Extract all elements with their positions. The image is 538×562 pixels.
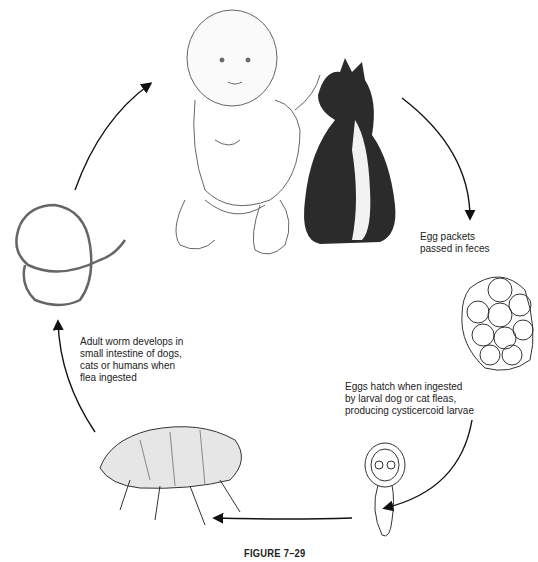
label-line: passed in feces [420,243,490,255]
cat-icon [304,58,395,244]
label-adult-worm: Adult worm develops in small intestine o… [80,336,183,384]
label-egg-packets: Egg packets passed in feces [420,231,490,255]
life-cycle-diagram [0,0,538,562]
figure-caption: FIGURE 7–29 [244,547,306,559]
arrow-worm-to-host [75,84,150,190]
label-line: Adult worm develops in [80,336,183,348]
label-line: by larval dog or cat fleas, [345,393,474,405]
arrow-eggs-to-larva [385,420,472,508]
label-eggs-hatch: Eggs hatch when ingested by larval dog o… [345,381,474,417]
tapeworm-icon [16,205,125,305]
label-line: flea ingested [80,372,183,384]
larva-icon [365,443,405,536]
label-line: Eggs hatch when ingested [345,381,474,393]
label-line: small intestine of dogs, [80,348,183,360]
egg-packet-icon [462,277,533,370]
arrow-larva-to-flea [215,518,352,519]
label-line: producing cysticercoid larvae [345,405,474,417]
infant-icon [176,10,320,254]
label-line: cats or humans when [80,360,183,372]
label-line: Egg packets [420,231,490,243]
flea-icon [100,427,241,525]
arrow-host-to-eggs [402,98,470,218]
